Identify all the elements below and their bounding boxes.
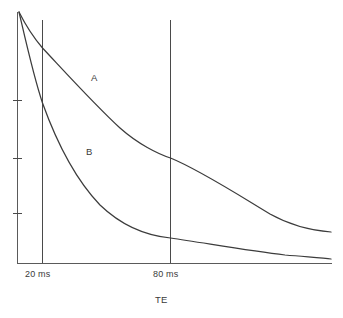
x-tick-label-80ms: 80 ms [153, 269, 179, 279]
x-axis-title: TE [155, 294, 168, 305]
curve-b [19, 12, 331, 259]
curve-a [19, 12, 331, 232]
curve-a-label: A [91, 72, 98, 83]
decay-chart: A B 20 ms 80 ms TE [0, 0, 343, 318]
x-tick-label-20ms: 20 ms [25, 269, 51, 279]
curve-b-label: B [86, 146, 93, 157]
